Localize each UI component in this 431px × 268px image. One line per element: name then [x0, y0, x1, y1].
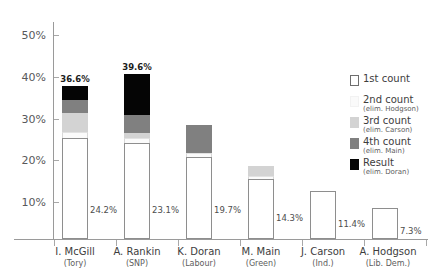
bar-segment-third-count	[62, 113, 88, 132]
bar-segment-first-count	[186, 157, 212, 239]
bar-first-count-label-doran: 19.7%	[214, 206, 241, 215]
y-tick-label-30: 30%	[12, 114, 46, 125]
bar-first-count-label-rankin: 23.1%	[152, 206, 179, 215]
legend-label-result: Result (elim. Doran)	[363, 157, 409, 176]
y-tick-40	[54, 77, 59, 78]
y-tick-20	[54, 160, 59, 161]
bar-segment-first-count	[310, 191, 336, 239]
legend-swatch-first-count-icon	[350, 75, 359, 86]
x-axis-label-carson-party: (Ind.)	[295, 258, 351, 268]
legend-label-third-count: 3rd count (elim. Carson)	[363, 115, 412, 134]
x-axis-label-rankin: A. Rankin (SNP)	[109, 246, 165, 268]
x-axis-label-doran-party: (Labour)	[171, 258, 227, 268]
bar-group-carson[interactable]: 11.4%	[310, 191, 336, 239]
x-axis-label-hodgson: A. Hodgson (Lib. Dem.)	[355, 246, 421, 268]
bar-segment-fourth-count	[62, 100, 88, 113]
bar-segment-result	[124, 74, 150, 115]
y-tick-label-50: 50%	[12, 30, 46, 41]
bar-segment-second-count	[248, 176, 274, 179]
y-tick-label-50-wrap: 50%	[8, 30, 46, 41]
x-axis-label-carson: J. Carson (Ind.)	[295, 246, 351, 268]
chart-legend: 1st count 2nd count (elim. Hodgson) 3rd …	[350, 74, 431, 179]
legend-swatch-third-count-icon	[350, 117, 359, 128]
bar-group-rankin[interactable]: 39.6% 23.1%	[124, 74, 150, 239]
bar-first-count-label-hodgson: 7.3%	[400, 227, 422, 236]
y-tick-label-40: 40%	[12, 72, 46, 83]
bar-segment-second-count	[124, 138, 150, 143]
x-axis-label-mcgill-party: (Tory)	[47, 258, 103, 268]
bar-segment-first-count	[62, 138, 88, 239]
legend-label-second-count-main: 2nd count	[363, 94, 419, 105]
legend-label-second-count-sub: (elim. Hodgson)	[363, 105, 419, 113]
legend-label-fourth-count-main: 4th count	[363, 136, 411, 147]
bar-segment-first-count	[372, 208, 398, 239]
y-axis-line	[53, 22, 54, 240]
x-axis-label-mcgill-name: I. McGill	[47, 246, 103, 257]
x-tick-6	[426, 240, 427, 246]
bar-total-label-mcgill: 36.6%	[60, 75, 90, 84]
bar-segment-third-count	[248, 166, 274, 176]
bar-segment-second-count	[62, 132, 88, 138]
legend-swatch-result-icon	[350, 159, 359, 170]
x-axis-label-hodgson-name: A. Hodgson	[355, 246, 421, 257]
legend-item-first-count[interactable]: 1st count	[350, 74, 431, 95]
bar-first-count-label-carson: 11.4%	[338, 220, 365, 229]
bar-total-label-rankin: 39.6%	[122, 63, 152, 72]
y-tick-label-10: 10%	[12, 197, 46, 208]
bar-segment-result	[62, 86, 88, 100]
bar-group-hodgson[interactable]: 7.3%	[372, 208, 398, 239]
bar-segment-first-count	[248, 179, 274, 239]
y-tick-label-40-wrap: 40%	[8, 72, 46, 83]
legend-label-fourth-count-sub: (elim. Main)	[363, 147, 411, 155]
x-axis-line	[14, 239, 428, 240]
x-axis-label-main-name: M. Main	[233, 246, 289, 257]
bar-segment-first-count	[124, 143, 150, 239]
bar-segment-fourth-count	[124, 115, 150, 133]
x-axis-label-main-party: (Green)	[233, 258, 289, 268]
legend-label-third-count-main: 3rd count	[363, 115, 412, 126]
legend-item-result[interactable]: Result (elim. Doran)	[350, 158, 431, 179]
y-tick-10	[54, 202, 59, 203]
legend-label-third-count-sub: (elim. Carson)	[363, 126, 412, 134]
legend-label-first-count-main: 1st count	[363, 73, 410, 84]
y-tick-label-10-wrap: 10%	[8, 197, 46, 208]
legend-label-first-count: 1st count	[363, 73, 410, 84]
x-axis-label-carson-name: J. Carson	[295, 246, 351, 257]
legend-label-result-sub: (elim. Doran)	[363, 168, 409, 176]
legend-label-result-main: Result	[363, 157, 409, 168]
bar-group-doran[interactable]: 19.7%	[186, 125, 212, 239]
x-axis-label-hodgson-party: (Lib. Dem.)	[355, 258, 421, 268]
bar-first-count-label-main: 14.3%	[276, 214, 303, 223]
y-tick-50	[54, 35, 59, 36]
x-axis-label-mcgill: I. McGill (Tory)	[47, 246, 103, 268]
x-axis-label-rankin-party: (SNP)	[109, 258, 165, 268]
bar-segment-fourth-count	[186, 125, 212, 153]
bar-group-main[interactable]: 14.3%	[248, 166, 274, 239]
bar-segment-third-count	[124, 133, 150, 138]
y-tick-label-20-wrap: 20%	[8, 155, 46, 166]
y-tick-label-20: 20%	[12, 155, 46, 166]
x-axis-label-doran: K. Doran (Labour)	[171, 246, 227, 268]
legend-item-third-count[interactable]: 3rd count (elim. Carson)	[350, 116, 431, 137]
bar-group-mcgill[interactable]: 36.6% 24.2%	[62, 86, 88, 239]
x-axis-label-main: M. Main (Green)	[233, 246, 289, 268]
x-axis-label-doran-name: K. Doran	[171, 246, 227, 257]
y-tick-30	[54, 119, 59, 120]
legend-swatch-second-count-icon	[350, 96, 359, 107]
stacked-bar-chart: 50% 40% 30% 20% 10% 36.6% 24.2%	[0, 0, 431, 268]
legend-item-fourth-count[interactable]: 4th count (elim. Main)	[350, 137, 431, 158]
x-axis-label-rankin-name: A. Rankin	[109, 246, 165, 257]
legend-item-second-count[interactable]: 2nd count (elim. Hodgson)	[350, 95, 431, 116]
legend-label-second-count: 2nd count (elim. Hodgson)	[363, 94, 419, 113]
legend-swatch-fourth-count-icon	[350, 138, 359, 149]
y-tick-label-30-wrap: 30%	[8, 114, 46, 125]
bar-segment-second-count	[186, 153, 212, 157]
bar-first-count-label-mcgill: 24.2%	[90, 206, 117, 215]
legend-label-fourth-count: 4th count (elim. Main)	[363, 136, 411, 155]
